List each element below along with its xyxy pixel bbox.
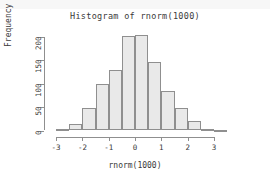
histogram-bar (201, 129, 214, 131)
chart-canvas: -3-2-10123050100150200 (0, 0, 270, 179)
x-axis-tick-label: 2 (179, 143, 197, 152)
y-axis-tick-label: 50 (33, 107, 42, 127)
x-axis-tick-label: 3 (205, 143, 223, 152)
y-axis-label: Frequency (4, 0, 13, 47)
y-axis-tick-label: 100 (33, 83, 42, 103)
x-axis-tick (188, 137, 189, 141)
x-axis-tick-label: -2 (73, 143, 91, 152)
x-axis-tick-label: 1 (152, 143, 170, 152)
histogram-bar (161, 91, 174, 130)
x-axis-tick-label: -3 (47, 143, 65, 152)
histogram-bar (175, 108, 188, 130)
histogram-bar (148, 62, 161, 131)
histogram-bar (69, 124, 82, 130)
histogram-bar (135, 35, 148, 130)
x-axis-tick (214, 137, 215, 141)
histogram-bar (122, 36, 135, 130)
histogram-bar (214, 130, 227, 132)
x-axis-label: rnorm(1000) (0, 161, 270, 170)
histogram-bar (188, 121, 201, 131)
x-axis-tick-label: 0 (126, 143, 144, 152)
x-axis-tick-label: -1 (100, 143, 118, 152)
histogram-bar (109, 70, 122, 131)
histogram-bar (56, 129, 69, 131)
histogram-bar (82, 108, 95, 130)
y-axis-tick-label: 0 (33, 130, 42, 150)
x-axis-tick (56, 137, 57, 141)
x-axis-tick (109, 137, 110, 141)
histogram-plot-window: Histogram of rnorm(1000) -3-2-1012305010… (0, 0, 270, 179)
y-axis-line (44, 37, 45, 131)
y-axis-tick-label: 150 (33, 60, 42, 80)
histogram-bar (96, 84, 109, 130)
y-axis-tick-label: 200 (33, 36, 42, 56)
x-axis-tick (161, 137, 162, 141)
x-axis-tick (135, 137, 136, 141)
x-axis-tick (82, 137, 83, 141)
